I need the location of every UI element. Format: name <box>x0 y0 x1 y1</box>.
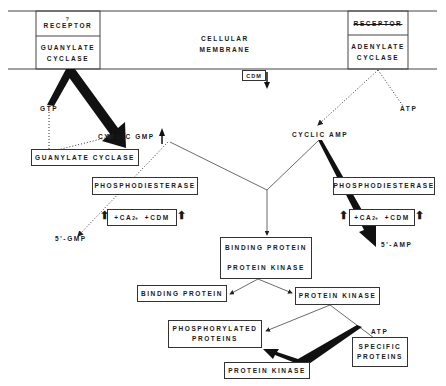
left-up-arrow-icon-2: ⬆ <box>177 211 188 220</box>
cyclase-label: CYCLASE <box>47 53 89 64</box>
right-receptor-cell: RECEPTOR <box>348 11 408 35</box>
left-ca-cdm-box: +CA2+ +CDM <box>107 209 177 226</box>
cyclic-gmp-label: CYCLIC GMP <box>98 132 155 141</box>
cdm-box: CDM <box>242 70 266 81</box>
cyclase-label: CYCLASE <box>357 52 399 63</box>
protein-kinase-box: PROTEIN KINASE <box>295 287 380 305</box>
right-phosphodiesterase-box: PHOSPHODIESTERASE <box>333 177 435 195</box>
ca-charge: 2+ <box>372 213 378 223</box>
5-amp-label: 5'-AMP <box>381 240 412 249</box>
guanylate-cyclase-membrane-cell: GUANYLATE CYCLASE <box>36 36 100 69</box>
phosphorylated-proteins-box: PHOSPHORYLATED PROTEINS <box>168 320 262 348</box>
right-up-arrow-icon-2: ⬆ <box>415 211 426 220</box>
membrane-label: MEMBRANE <box>199 44 250 55</box>
gtp-label: GTP <box>40 104 58 113</box>
complex-binding-protein-cell: BINDING PROTEIN <box>220 237 312 259</box>
ca-label: +CA <box>354 213 372 223</box>
ca-label: +CA <box>114 213 132 223</box>
phosphorylated-label: PHOSPHORYLATED <box>173 324 258 334</box>
right-receptor-label: RECEPTOR <box>354 18 403 29</box>
right-ca-cdm-box: +CA2+ +CDM <box>349 209 415 226</box>
proteins-label: PROTEINS <box>192 334 238 344</box>
cdm-label: +CDM <box>385 213 410 223</box>
complex-protein-kinase-cell: PROTEIN KINASE <box>220 257 312 279</box>
bottom-protein-kinase-box: PROTEIN KINASE <box>224 362 310 379</box>
adenylate-cyclase-membrane-cell: ADENYLATE CYCLASE <box>348 35 408 69</box>
atp-to-phosphorylated-thick-arrow <box>263 325 362 366</box>
ca-charge: 2+ <box>132 213 138 223</box>
5-gmp-label: 5'-GMP <box>55 234 87 243</box>
left-phosphodiesterase-box: PHOSPHODIESTERASE <box>92 177 198 195</box>
left-receptor-cell: ? RECEPTOR <box>36 11 100 36</box>
proteins-label: PROTEINS <box>357 352 403 362</box>
adenylate-label: ADENYLATE <box>351 41 405 52</box>
cellular-membrane-label: CELLULAR MEMBRANE <box>170 30 280 58</box>
guanylate-label: GUANYLATE <box>41 42 95 53</box>
cellular-label: CELLULAR <box>201 33 249 44</box>
specific-proteins-box: SPECIFIC PROTEINS <box>352 337 408 367</box>
signal-transduction-diagram: ? RECEPTOR GUANYLATE CYCLASE CELLULAR ME… <box>0 0 446 386</box>
specific-label: SPECIFIC <box>359 342 402 352</box>
guanylate-cyclase-box: GUANYLATE CYCLASE <box>31 149 139 166</box>
cgmp-up-arrow-icon <box>159 128 165 144</box>
binding-protein-box: BINDING PROTEIN <box>137 285 227 302</box>
kinase-atp-label: ATP <box>371 327 388 336</box>
cyclic-amp-label: CYCLIC AMP <box>292 130 348 139</box>
atp-label: ATP <box>400 104 417 113</box>
cdm-label: +CDM <box>145 213 170 223</box>
left-receptor-label: RECEPTOR <box>44 22 93 30</box>
